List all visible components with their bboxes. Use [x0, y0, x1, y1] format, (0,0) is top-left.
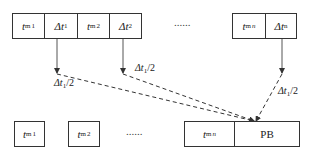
dt2-sub: 2: [129, 22, 133, 30]
btmn-sup: n: [213, 130, 217, 138]
label-left-half-dt1: Δt1/2: [54, 77, 74, 90]
bottom-group-n: tmn PB: [184, 121, 300, 147]
top-group-n: tmn Δtn: [232, 13, 297, 39]
label-right-half-dt1: Δt1/2: [278, 85, 298, 98]
btmn-sub: m: [206, 130, 211, 138]
timing-diagram: tm1 Δt1 tm2 Δt2 ...... tmn Δtn Δt1/2 Δt1…: [0, 0, 311, 158]
cell-tm2: tm2: [77, 14, 109, 38]
btm2-sub: m: [81, 130, 86, 138]
cell-dtn: Δtn: [265, 14, 296, 38]
tmn-sub: m: [246, 22, 251, 30]
pb-label: PB: [260, 128, 273, 140]
tm2-sub: m: [90, 22, 95, 30]
dashed-arrow-1: [57, 74, 254, 121]
label-left-base: Δt: [54, 77, 63, 88]
dt1-base: Δt: [54, 20, 64, 32]
label-mid-tail: /2: [147, 62, 155, 73]
top-ellipsis: ......: [174, 16, 191, 28]
cell-dt1: Δt1: [44, 14, 77, 38]
label-mid-base: Δt: [135, 62, 144, 73]
dtn-sub: n: [284, 22, 288, 30]
btm2-sup: 2: [87, 130, 91, 138]
cell-dt2: Δt2: [109, 14, 141, 38]
tm1-sup: 1: [32, 22, 36, 30]
dt1-sub: 1: [64, 22, 68, 30]
btm1-sub: m: [26, 130, 31, 138]
dtn-base: Δt: [274, 20, 284, 32]
label-right-tail: /2: [290, 85, 298, 96]
dt2-base: Δt: [119, 20, 129, 32]
tm1-sub: m: [25, 22, 30, 30]
cell-pb: PB: [234, 122, 299, 146]
top-group-1: tm1 Δt1 tm2 Δt2: [12, 13, 142, 39]
cell-tmn: tmn: [233, 14, 265, 38]
dashed-arrow-2: [123, 74, 254, 121]
cell-bottom-tmn: tmn: [185, 122, 234, 146]
bottom-box-tm1: tm1: [14, 121, 45, 147]
bottom-ellipsis: ......: [126, 125, 143, 137]
btm1-sup: 1: [33, 130, 37, 138]
tmn-sup: n: [252, 22, 256, 30]
label-right-base: Δt: [278, 85, 287, 96]
bottom-box-tm2: tm2: [68, 121, 100, 147]
tm2-sup: 2: [97, 22, 101, 30]
cell-tm1: tm1: [13, 14, 44, 38]
label-left-tail: /2: [66, 77, 74, 88]
label-mid-half-dt1: Δt1/2: [135, 62, 155, 75]
